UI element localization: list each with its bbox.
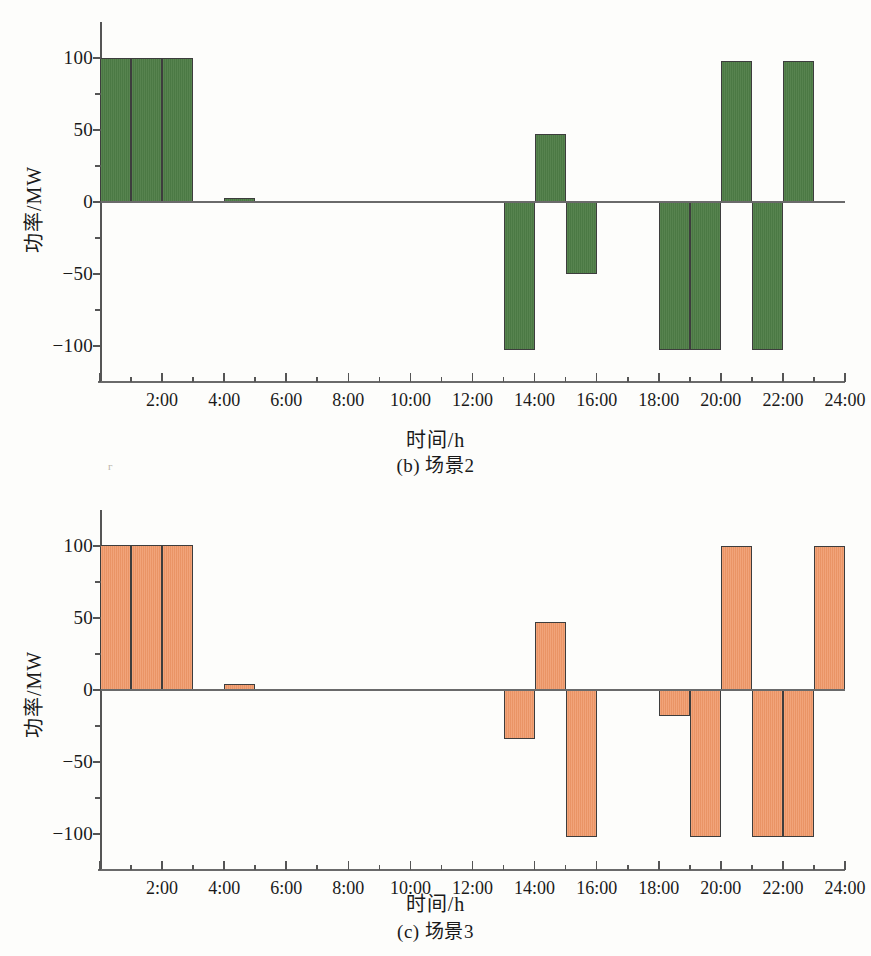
bar xyxy=(659,690,690,716)
x-tick xyxy=(844,373,846,382)
y-tick-label: 100 xyxy=(33,536,93,555)
x-tick xyxy=(844,861,846,870)
y-tick xyxy=(93,57,101,59)
y-tick xyxy=(95,725,101,727)
x-tick-label: 22:00 xyxy=(762,390,803,410)
x-tick xyxy=(503,865,505,870)
x-tick-label: 2:00 xyxy=(146,390,178,410)
y-tick-label: 50 xyxy=(33,120,93,139)
x-tick xyxy=(689,377,691,382)
x-tick xyxy=(689,865,691,870)
x-tick xyxy=(472,373,474,382)
bar xyxy=(131,545,162,690)
x-tick xyxy=(379,865,381,870)
x-tick xyxy=(99,861,101,870)
y-tick xyxy=(95,93,101,95)
bar xyxy=(690,202,721,350)
bar xyxy=(504,690,535,739)
y-tick xyxy=(95,309,101,311)
bar xyxy=(162,545,193,690)
bar xyxy=(721,546,752,690)
x-tick-label: 14:00 xyxy=(514,390,555,410)
zero-line-c xyxy=(100,689,845,691)
y-tick xyxy=(93,545,101,547)
y-tick xyxy=(95,237,101,239)
bar xyxy=(783,690,814,837)
x-tick xyxy=(161,373,163,382)
x-tick xyxy=(503,377,505,382)
x-tick xyxy=(720,373,722,382)
chart-scenario-3: −100−50050100 2:004:006:008:0010:0012:00… xyxy=(0,470,871,956)
x-tick xyxy=(410,373,412,382)
x-tick xyxy=(130,377,132,382)
bar xyxy=(752,690,783,837)
x-tick xyxy=(130,865,132,870)
y-tick xyxy=(93,617,101,619)
x-tick-label: 12:00 xyxy=(452,390,493,410)
bar xyxy=(566,202,597,274)
x-tick-label: 24:00 xyxy=(824,390,865,410)
x-tick xyxy=(441,377,443,382)
chart-scenario-2: −100−50050100 2:004:006:008:0010:0012:00… xyxy=(0,0,871,478)
bar xyxy=(162,58,193,202)
bar xyxy=(783,61,814,202)
bar xyxy=(721,61,752,202)
x-tick xyxy=(658,861,660,870)
x-tick xyxy=(379,377,381,382)
x-tick xyxy=(596,861,598,870)
x-axis-title-b: 时间/h xyxy=(0,424,871,453)
bar xyxy=(100,58,131,202)
x-tick xyxy=(254,865,256,870)
plot-area-scenario-3: −100−50050100 2:004:006:008:0010:0012:00… xyxy=(100,510,845,870)
x-tick xyxy=(813,865,815,870)
x-tick xyxy=(627,865,629,870)
x-tick-label: 4:00 xyxy=(208,390,240,410)
y-tick xyxy=(95,653,101,655)
bar xyxy=(535,622,566,690)
x-tick xyxy=(348,373,350,382)
bar xyxy=(659,202,690,350)
bar xyxy=(690,690,721,837)
x-tick xyxy=(285,373,287,382)
bar xyxy=(131,58,162,202)
x-tick xyxy=(534,373,536,382)
bar xyxy=(504,202,535,350)
x-tick xyxy=(192,865,194,870)
x-tick xyxy=(161,861,163,870)
y-tick xyxy=(93,345,101,347)
figure-caption-c: (c) 场景3 xyxy=(0,916,871,943)
x-tick xyxy=(316,377,318,382)
x-tick xyxy=(565,865,567,870)
y-axis-title-c: 功率/MW xyxy=(18,645,47,745)
x-tick-label: 20:00 xyxy=(700,390,741,410)
y-tick-label: −100 xyxy=(33,336,93,355)
x-tick xyxy=(596,373,598,382)
x-tick xyxy=(254,377,256,382)
x-tick xyxy=(782,373,784,382)
y-axis-title-b: 功率/MW xyxy=(18,160,47,260)
x-tick-label: 16:00 xyxy=(576,390,617,410)
x-tick-label: 8:00 xyxy=(332,390,364,410)
y-tick xyxy=(93,761,101,763)
y-tick xyxy=(93,129,101,131)
x-tick-label: 18:00 xyxy=(638,390,679,410)
y-tick xyxy=(93,833,101,835)
x-tick xyxy=(782,861,784,870)
plot-area-scenario-2: −100−50050100 2:004:006:008:0010:0012:00… xyxy=(100,22,845,382)
x-tick xyxy=(720,861,722,870)
x-tick xyxy=(223,861,225,870)
x-tick-label: 10:00 xyxy=(390,390,431,410)
zero-line-b xyxy=(100,201,845,203)
bar xyxy=(100,545,131,690)
y-tick xyxy=(95,581,101,583)
x-tick xyxy=(410,861,412,870)
y-tick-label: 50 xyxy=(33,608,93,627)
x-tick xyxy=(751,865,753,870)
y-tick-label: −50 xyxy=(33,264,93,283)
y-tick xyxy=(95,797,101,799)
x-tick xyxy=(813,377,815,382)
y-tick xyxy=(93,273,101,275)
bar xyxy=(752,202,783,350)
x-tick xyxy=(441,865,443,870)
x-tick xyxy=(565,377,567,382)
